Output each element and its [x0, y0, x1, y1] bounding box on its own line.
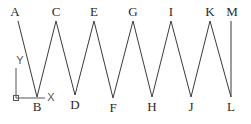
ucs-y-label: Y: [16, 54, 24, 66]
point-label-l: L: [227, 99, 235, 114]
point-label-m: M: [226, 4, 238, 19]
point-label-f: F: [109, 100, 116, 115]
point-label-d: D: [70, 97, 79, 112]
point-label-j: J: [188, 99, 193, 114]
point-label-e: E: [90, 4, 98, 19]
point-label-c: C: [52, 4, 61, 19]
point-label-i: I: [169, 4, 173, 19]
ucs-icon: XY: [14, 54, 56, 103]
zigzag-polyline: [18, 21, 231, 98]
point-label-h: H: [147, 99, 156, 114]
zigzag-diagram: XY ABCDEFGHIJKLM: [0, 0, 251, 124]
ucs-x-label: X: [47, 91, 55, 103]
point-label-g: G: [128, 4, 137, 19]
point-label-b: B: [33, 99, 42, 114]
point-label-k: K: [205, 4, 215, 19]
point-label-a: A: [10, 4, 20, 19]
